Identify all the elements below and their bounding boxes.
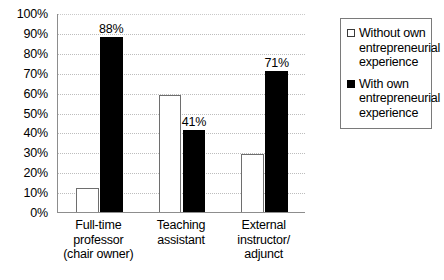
- legend-entry: With own entrepreneurial experience: [347, 77, 426, 121]
- bars-layer: 88%41%71%: [58, 14, 305, 212]
- bar-value-label: 71%: [264, 57, 288, 70]
- x-axis-category-label: Full-timeprofessor(chair owner): [63, 218, 133, 262]
- legend: Without own entrepreneurial experienceWi…: [340, 18, 432, 129]
- y-axis: 0%10%20%30%40%50%60%70%80%90%100%: [0, 14, 52, 213]
- x-axis-category-label: Externalinstructor/adjunct: [237, 218, 290, 262]
- y-axis-tick-label: 0%: [30, 207, 48, 220]
- bar-with-experience: [183, 130, 206, 212]
- bar-chart: 0%10%20%30%40%50%60%70%80%90%100% 88%41%…: [0, 0, 444, 280]
- category-label-line: Teaching: [157, 218, 205, 233]
- y-axis-tick-label: 100%: [17, 8, 48, 21]
- category-label-line: professor: [63, 233, 133, 248]
- y-axis-tick-label: 50%: [24, 107, 48, 120]
- y-axis-tick-label: 60%: [24, 87, 48, 100]
- bar-value-label: 88%: [99, 23, 123, 36]
- y-axis-tick-label: 10%: [24, 187, 48, 200]
- legend-entry: Without own entrepreneurial experience: [347, 26, 426, 70]
- y-axis-tick-label: 70%: [24, 67, 48, 80]
- category-label-line: assistant: [157, 233, 205, 248]
- y-axis-tick-label: 40%: [24, 127, 48, 140]
- category-label-line: (chair owner): [63, 247, 133, 262]
- y-axis-tick-label: 80%: [24, 48, 48, 61]
- x-axis-category-label: Teachingassistant: [157, 218, 205, 247]
- bar-without-experience: [241, 154, 264, 212]
- legend-label: Without own entrepreneurial experience: [359, 26, 440, 70]
- bar-with-experience: [265, 71, 288, 212]
- bar-without-experience: [76, 188, 99, 212]
- y-axis-tick-label: 90%: [24, 28, 48, 41]
- filled-square-icon: [347, 80, 355, 88]
- y-axis-tick-label: 20%: [24, 167, 48, 180]
- category-label-line: External: [237, 218, 290, 233]
- bar-without-experience: [159, 95, 182, 212]
- bar-value-label: 41%: [182, 116, 206, 129]
- category-label-line: Full-time: [63, 218, 133, 233]
- open-square-icon: [347, 29, 355, 37]
- x-axis-labels: Full-timeprofessor(chair owner)Teachinga…: [57, 218, 305, 278]
- category-label-line: instructor/: [237, 233, 290, 248]
- category-label-line: adjunct: [237, 247, 290, 262]
- plot-area: 88%41%71%: [57, 14, 305, 213]
- bar-with-experience: [100, 37, 123, 212]
- y-axis-tick-label: 30%: [24, 147, 48, 160]
- legend-label: With own entrepreneurial experience: [359, 77, 440, 121]
